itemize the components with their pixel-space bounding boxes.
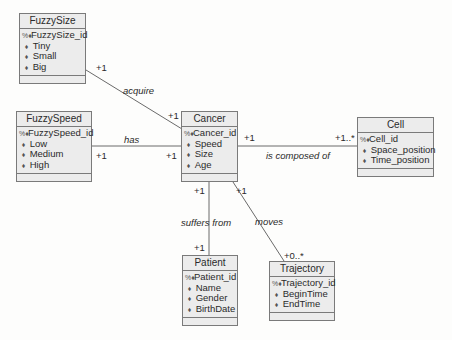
class-name: Patient	[183, 256, 237, 271]
multiplicity-composed-cell: +1..*	[335, 132, 355, 143]
attribute-list: %♦Patient_id ♦Name ♦Gender ♦BirthDate	[183, 271, 237, 318]
class-patient[interactable]: Patient %♦Patient_id ♦Name ♦Gender ♦Birt…	[182, 255, 238, 326]
attribute-icon: ♦	[22, 161, 30, 172]
attribute-list: %♦Cell_id ♦Space_position ♦Time_position	[358, 133, 433, 169]
class-name: Cancer	[182, 112, 237, 127]
association-label-acquire: acquire	[123, 85, 154, 96]
operations-compartment	[17, 174, 91, 181]
attribute-pk: %♦FuzzySize_id	[22, 30, 85, 41]
attribute-list: %♦FuzzySize_id ♦Tiny ♦Small ♦Big	[20, 29, 85, 76]
multiplicity-has-cancer: +1	[166, 150, 177, 161]
class-name: Trajectory	[270, 262, 334, 277]
attribute: ♦High	[19, 160, 91, 171]
class-cell[interactable]: Cell %♦Cell_id ♦Space_position ♦Time_pos…	[357, 117, 434, 177]
multiplicity-composed-cancer: +1	[244, 132, 255, 143]
operations-compartment	[183, 318, 237, 325]
attribute-icon: ♦	[187, 161, 195, 172]
attribute: ♦BirthDate	[185, 304, 237, 315]
attribute-list: %♦Cancer_id ♦Speed ♦Size ♦Age	[182, 127, 237, 174]
multiplicity-acquire-cancer: +1	[168, 110, 179, 121]
operations-compartment	[270, 313, 334, 320]
multiplicity-has-fuzzyspeed: +1	[96, 150, 107, 161]
attribute-icon: ♦	[25, 63, 33, 74]
multiplicity-suffers-patient: +1	[194, 242, 205, 253]
attribute: ♦Small	[22, 51, 85, 62]
multiplicity-moves-cancer: +1	[236, 185, 247, 196]
attribute: ♦Time_position	[360, 155, 433, 166]
multiplicity-moves-trajectory: +0..*	[284, 250, 304, 261]
attribute-list: %♦FuzzySpeed_id ♦Low ♦Medium ♦High	[17, 127, 91, 174]
attribute-list: %♦Trajectory_id ♦BeginTime ♦EndTime	[270, 277, 334, 313]
class-trajectory[interactable]: Trajectory %♦Trajectory_id ♦BeginTime ♦E…	[269, 261, 335, 321]
class-fuzzysize[interactable]: FuzzySize %♦FuzzySize_id ♦Tiny ♦Small ♦B…	[19, 13, 86, 84]
attribute-icon: ♦	[188, 305, 196, 316]
operations-compartment	[358, 169, 433, 176]
class-name: FuzzySize	[20, 14, 85, 29]
attribute: ♦Age	[184, 160, 237, 171]
attribute-icon: ♦	[275, 300, 283, 311]
multiplicity-acquire-fuzzysize: +1	[96, 62, 107, 73]
multiplicity-suffers-cancer: +1	[194, 185, 205, 196]
attribute: ♦Big	[22, 62, 85, 73]
association-label-moves: moves	[255, 216, 283, 227]
operations-compartment	[20, 76, 85, 83]
association-label-composed: is composed of	[266, 150, 330, 161]
class-name: Cell	[358, 118, 433, 133]
attribute: ♦EndTime	[272, 299, 334, 310]
class-name: FuzzySpeed	[17, 112, 91, 127]
attribute-icon: ♦	[363, 156, 371, 167]
association-label-suffers: suffers from	[181, 217, 231, 228]
operations-compartment	[182, 174, 237, 181]
class-cancer[interactable]: Cancer %♦Cancer_id ♦Speed ♦Size ♦Age	[181, 111, 238, 182]
class-fuzzyspeed[interactable]: FuzzySpeed %♦FuzzySpeed_id ♦Low ♦Medium …	[16, 111, 92, 182]
association-label-has: has	[124, 134, 139, 145]
